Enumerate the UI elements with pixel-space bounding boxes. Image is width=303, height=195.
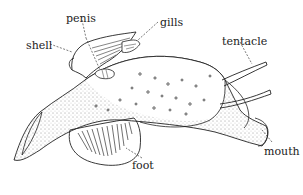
label-foot: foot (132, 160, 154, 171)
sea-slug-diagram: penis gills shell tentacle foot mouth (0, 0, 303, 195)
label-shell: shell (26, 40, 52, 51)
label-tentacle: tentacle (222, 36, 267, 47)
mantle-bulb (95, 69, 114, 79)
gills (122, 40, 140, 53)
label-penis: penis (66, 13, 96, 24)
label-gills: gills (160, 17, 183, 28)
label-mouth: mouth (264, 146, 300, 157)
body (14, 56, 268, 160)
